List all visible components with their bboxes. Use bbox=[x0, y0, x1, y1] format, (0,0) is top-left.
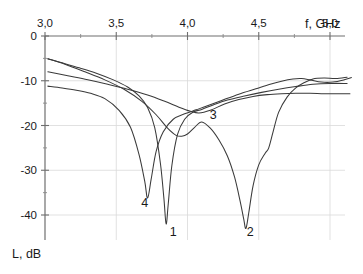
curve-label-1: 1 bbox=[170, 225, 177, 239]
grid-lines bbox=[45, 36, 345, 240]
x-tick-label-3: 4,5 bbox=[251, 17, 267, 29]
data-curves bbox=[48, 59, 352, 229]
y-tick-label-3: -30 bbox=[20, 164, 37, 176]
return-loss-plot: 3,03,54,04,55,0 0-10-20-30-40 1234 f, GH… bbox=[0, 0, 363, 274]
curve-label-4: 4 bbox=[141, 196, 148, 210]
curve-2 bbox=[48, 59, 347, 229]
x-axis-title: f, GHz bbox=[305, 17, 340, 31]
x-tick-label-1: 3,5 bbox=[108, 17, 124, 29]
y-tick-label-1: -10 bbox=[20, 75, 37, 87]
x-tick-label-0: 3,0 bbox=[37, 17, 53, 29]
x-axis-tick-labels: 3,03,54,04,55,0 bbox=[37, 17, 338, 29]
tick-marks bbox=[41, 32, 330, 215]
y-tick-label-0: 0 bbox=[31, 30, 37, 42]
y-axis-title: L, dB bbox=[12, 247, 41, 261]
curve-label-2: 2 bbox=[247, 225, 254, 239]
curve-4 bbox=[48, 78, 352, 198]
curve-label-3: 3 bbox=[210, 108, 217, 122]
axis-lines bbox=[45, 36, 345, 240]
x-tick-label-2: 4,0 bbox=[180, 17, 196, 29]
curve-3 bbox=[48, 72, 350, 113]
y-axis-tick-labels: 0-10-20-30-40 bbox=[20, 30, 37, 221]
y-tick-label-4: -40 bbox=[20, 209, 37, 221]
curve-number-labels: 1234 bbox=[141, 108, 253, 238]
y-tick-label-2: -20 bbox=[20, 120, 37, 132]
chart-figure: 3,03,54,04,55,0 0-10-20-30-40 1234 f, GH… bbox=[0, 0, 363, 274]
